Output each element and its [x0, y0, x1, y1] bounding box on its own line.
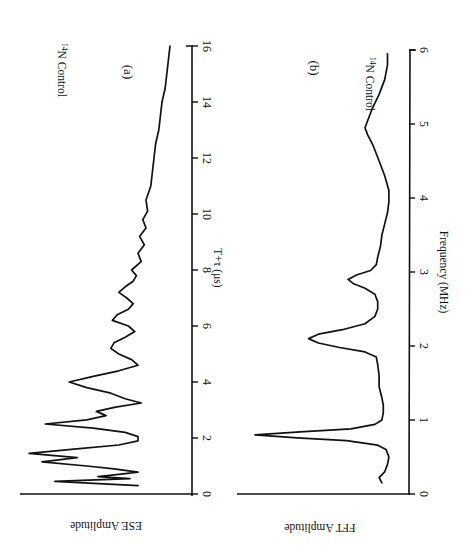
rotated-figure: 0246810121416 T+τ (μs) ESE Amplitude (a)… [0, 0, 472, 556]
tick-label: 16 [200, 40, 214, 52]
panel-b-fft-curve [255, 54, 389, 483]
tick-label: 8 [200, 267, 214, 273]
panel-b-label: (b) [307, 60, 322, 75]
tick-label: 10 [200, 208, 214, 220]
tick-label: 2 [417, 343, 431, 349]
tick-label: 3 [417, 269, 431, 275]
panel-a-time-axis [186, 46, 192, 496]
tick-label: 4 [200, 379, 214, 385]
panel-b-annotation: 14N Control [364, 57, 377, 111]
panel-a-annotation: 14N Control [56, 43, 69, 97]
tick-label: 12 [200, 152, 214, 164]
tick-label: 4 [417, 195, 431, 201]
panel-a-label: (a) [121, 65, 136, 79]
tick-label: 14 [200, 96, 214, 108]
tick-label: 1 [417, 417, 431, 423]
tick-label: 2 [200, 435, 214, 441]
panel-b-xlabel: Frequency (MHz) [437, 231, 450, 314]
panel-b-ticks: 0123456 [409, 47, 431, 497]
tick-label: 0 [200, 491, 214, 497]
panel-a-ese: 0246810121416 T+τ (μs) ESE Amplitude (a)… [20, 40, 224, 532]
panel-a-annotation-text: N Control [56, 51, 68, 97]
panel-a-ylabel: ESE Amplitude [70, 519, 142, 532]
panel-a-ticks: 0246810121416 [192, 40, 214, 497]
panel-b-fft: 0123456 Frequency (MHz) FFT Amplitude (b… [237, 47, 450, 534]
tick-label: 5 [417, 121, 431, 127]
panel-b-annotation-text: N Control [364, 65, 376, 111]
panel-b-ylabel: FFT Amplitude [284, 521, 355, 534]
panel-a-xlabel: T+τ (μs) [211, 248, 224, 287]
tick-label: 0 [417, 491, 431, 497]
tick-label: 6 [200, 323, 214, 329]
tick-label: 6 [417, 47, 431, 53]
panel-a-ese-curve [29, 46, 170, 486]
